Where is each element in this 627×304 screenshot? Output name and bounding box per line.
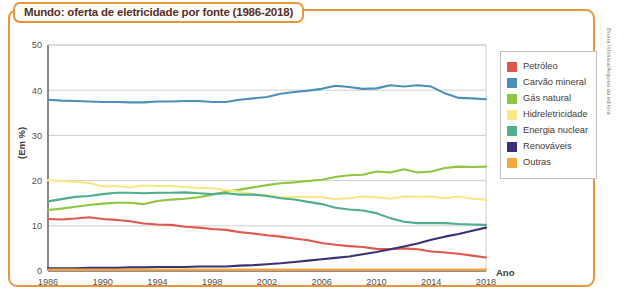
legend-item: Renováveis bbox=[507, 139, 591, 155]
legend-item-label: Petróleo bbox=[523, 62, 558, 71]
series-line bbox=[48, 228, 486, 269]
x-axis-label: Ano bbox=[496, 267, 514, 278]
legend-item: Carvão mineral bbox=[507, 75, 591, 91]
legend-item: Petróleo bbox=[507, 59, 591, 75]
image-credit: Bruna Ishihara/Arquivo da editora bbox=[606, 28, 612, 115]
x-axis-tick-label: 2018 bbox=[476, 277, 496, 287]
legend-swatch-icon bbox=[507, 126, 517, 136]
x-axis-tick-label: 2014 bbox=[421, 277, 441, 287]
legend-item-label: Renováveis bbox=[523, 142, 572, 151]
series-line bbox=[48, 85, 486, 102]
y-axis-tick-label: 40 bbox=[32, 86, 42, 96]
legend-item: Outras bbox=[507, 155, 591, 171]
y-axis-tick-label: 50 bbox=[32, 40, 42, 50]
chart-legend: PetróleoCarvão mineralGás naturalHidrele… bbox=[500, 51, 597, 179]
x-axis-tick-label: 1998 bbox=[202, 277, 222, 287]
legend-swatch-icon bbox=[507, 110, 517, 120]
legend-swatch-icon bbox=[507, 142, 517, 152]
x-axis-tick-label: 1986 bbox=[38, 277, 58, 287]
legend-item: Hidreletricidade bbox=[507, 107, 591, 123]
x-axis-tick-label: 1990 bbox=[93, 277, 113, 287]
plot-area: 0102030405019861990199419982002200620102… bbox=[8, 9, 595, 287]
legend-swatch-icon bbox=[507, 62, 517, 72]
y-axis-tick-label: 10 bbox=[32, 221, 42, 231]
page-title: Mundo: oferta de eletricidade por fonte … bbox=[24, 7, 293, 19]
legend-item: Energia nuclear bbox=[507, 123, 591, 139]
x-axis-tick-label: 2006 bbox=[312, 277, 332, 287]
x-axis-tick-label: 1994 bbox=[147, 277, 167, 287]
legend-item-label: Energia nuclear bbox=[523, 126, 588, 135]
legend-item-label: Outras bbox=[523, 158, 551, 167]
legend-swatch-icon bbox=[507, 158, 517, 168]
y-axis-tick-label: 0 bbox=[37, 266, 42, 276]
x-axis-tick-label: 2002 bbox=[257, 277, 277, 287]
figure-root: Mundo: oferta de eletricidade por fonte … bbox=[0, 0, 627, 304]
legend-item-label: Carvão mineral bbox=[523, 78, 586, 87]
legend-item: Gás natural bbox=[507, 91, 591, 107]
legend-item-label: Gás natural bbox=[523, 94, 571, 103]
y-axis-tick-label: 30 bbox=[32, 131, 42, 141]
figure-title-tab: Mundo: oferta de eletricidade por fonte … bbox=[13, 2, 304, 23]
x-axis-tick-label: 2010 bbox=[366, 277, 386, 287]
y-axis-label: (Em %) bbox=[16, 127, 27, 159]
legend-swatch-icon bbox=[507, 94, 517, 104]
legend-swatch-icon bbox=[507, 78, 517, 88]
y-axis-tick-label: 20 bbox=[32, 176, 42, 186]
series-line bbox=[48, 167, 486, 210]
legend-item-label: Hidreletricidade bbox=[523, 110, 588, 119]
